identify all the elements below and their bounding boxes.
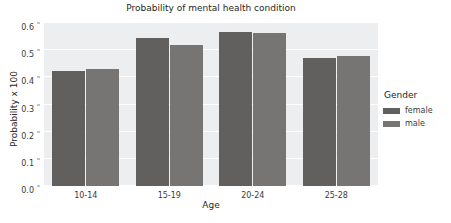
legend-label-female: female (405, 106, 433, 115)
x-tick-label-25-28: 25-28 (325, 191, 348, 200)
y-tick-mark (37, 186, 40, 187)
bar-20-24-female (219, 32, 252, 186)
y-tick-mark (37, 50, 40, 51)
y-axis-label: Probability x 100 (9, 39, 19, 179)
legend-item-male[interactable]: male (383, 118, 449, 129)
y-tick-mark (37, 104, 40, 105)
y-tick-mark (37, 131, 40, 132)
legend-label-male: male (405, 119, 425, 128)
y-axis: 0.00.10.20.30.40.50.6 (0, 23, 40, 186)
legend-title: Gender (384, 90, 449, 100)
x-tick-label-15-19: 15-19 (158, 191, 181, 200)
legend-item-female[interactable]: female (383, 105, 449, 116)
bar-20-24-male (253, 33, 286, 186)
x-tick-label-20-24: 20-24 (241, 191, 264, 200)
bar-10-14-male (86, 69, 119, 186)
chart-title: Probability of mental health condition (44, 3, 378, 13)
bar-25-28-female (303, 58, 336, 186)
bar-group (136, 23, 203, 186)
chart-figure: Probability of mental health condition 0… (0, 0, 451, 223)
bar-15-19-male (170, 45, 203, 186)
legend-swatch-female (383, 108, 400, 114)
legend-swatch-male (383, 121, 400, 127)
bar-10-14-female (52, 71, 85, 186)
legend: Gender femalemale (383, 90, 449, 131)
bar-group (303, 23, 370, 186)
y-tick-mark (37, 23, 40, 24)
x-axis-label: Age (44, 200, 378, 210)
x-tick-label-10-14: 10-14 (74, 191, 97, 200)
bar-25-28-male (337, 56, 370, 186)
legend-rows: femalemale (383, 105, 449, 129)
bar-15-19-female (136, 38, 169, 186)
y-tick-mark (37, 158, 40, 159)
plot-area (44, 23, 378, 186)
y-tick-mark (37, 77, 40, 78)
bar-group (219, 23, 286, 186)
bar-group (52, 23, 119, 186)
